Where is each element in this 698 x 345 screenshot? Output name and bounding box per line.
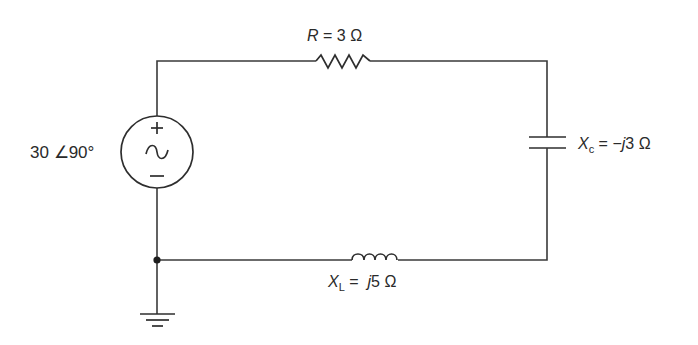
resistor-icon <box>316 55 370 68</box>
inductor-label: XL = j5 Ω <box>328 274 396 293</box>
capacitor-value: 3 Ω <box>625 135 650 152</box>
node-dot <box>153 256 160 263</box>
source-label: 30 ∠90° <box>30 144 94 161</box>
resistor-label: R = 3 Ω <box>307 28 362 44</box>
resistor-value: 3 Ω <box>337 27 362 44</box>
capacitor-label: Xc = −j3 Ω <box>578 136 651 155</box>
inductor-value: 5 Ω <box>371 273 396 290</box>
resistor-equals: = <box>319 27 337 44</box>
capacitor-symbol: X <box>578 135 589 152</box>
inductor-equals: = <box>345 273 368 290</box>
ac-source-icon <box>121 116 193 188</box>
wire-right-bottom <box>398 148 547 260</box>
resistor-symbol: R <box>307 27 319 44</box>
circuit-schematic <box>0 0 698 345</box>
ground-icon <box>140 314 175 326</box>
wire-top-right <box>370 61 547 137</box>
inductor-icon <box>352 254 397 260</box>
capacitor-equals: = − <box>594 135 622 152</box>
source-angle: ∠90° <box>54 143 95 162</box>
capacitor-icon <box>529 137 566 148</box>
source-magnitude: 30 <box>30 143 49 162</box>
inductor-symbol: X <box>328 273 339 290</box>
wire-top-left <box>157 61 316 116</box>
